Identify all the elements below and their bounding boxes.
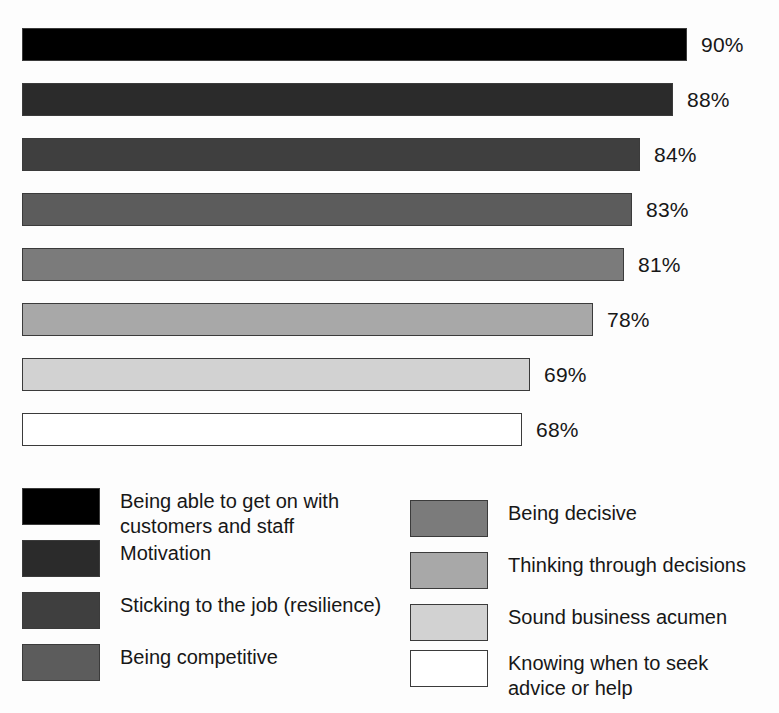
legend-item-label: Being decisive	[508, 500, 637, 526]
legend-swatch-icon	[410, 604, 488, 641]
bar-rect-90	[22, 28, 687, 61]
bar-row: 83%	[22, 193, 689, 226]
legend-item-label: Sound business acumen	[508, 604, 727, 630]
bar-chart-figure: 90% 88% 84% 83% 81% 78% 69% 68%	[0, 0, 779, 713]
bar-value-label: 68%	[536, 419, 579, 440]
bar-value-label: 88%	[687, 89, 730, 110]
bar-row: 88%	[22, 83, 730, 116]
bar-row: 84%	[22, 138, 697, 171]
legend-item-label: Motivation	[120, 540, 211, 566]
legend-item: Sound business acumen	[410, 604, 727, 641]
bar-rect-88	[22, 83, 673, 116]
legend-item: Being competitive	[22, 644, 278, 681]
bars-plot-area: 90% 88% 84% 83% 81% 78% 69% 68%	[0, 0, 779, 470]
bar-value-label: 84%	[654, 144, 697, 165]
legend-swatch-icon	[22, 488, 100, 525]
legend-item: Knowing when to seek advice or help	[410, 650, 708, 701]
legend-item-label: Thinking through decisions	[508, 552, 746, 578]
legend-item: Being able to get on with customers and …	[22, 488, 339, 539]
bar-rect-81	[22, 248, 624, 281]
bar-value-label: 78%	[607, 309, 650, 330]
legend-item: Being decisive	[410, 500, 637, 537]
legend-swatch-icon	[410, 552, 488, 589]
bar-value-label: 83%	[646, 199, 689, 220]
bar-rect-83	[22, 193, 632, 226]
legend-item-label: Knowing when to seek advice or help	[508, 650, 708, 701]
legend-swatch-icon	[22, 644, 100, 681]
bar-row: 90%	[22, 28, 744, 61]
legend-item-label: Sticking to the job (resilience)	[120, 592, 381, 618]
bar-rect-84	[22, 138, 640, 171]
legend-item: Motivation	[22, 540, 211, 577]
bar-row: 81%	[22, 248, 681, 281]
bar-value-label: 69%	[544, 364, 587, 385]
legend-swatch-icon	[22, 540, 100, 577]
bar-value-label: 81%	[638, 254, 681, 275]
legend-item: Thinking through decisions	[410, 552, 746, 589]
bar-row: 68%	[22, 413, 579, 446]
bar-row: 69%	[22, 358, 587, 391]
bar-rect-69	[22, 358, 530, 391]
chart-legend: Being able to get on with customers and …	[0, 478, 779, 713]
bar-rect-78	[22, 303, 593, 336]
legend-swatch-icon	[410, 650, 488, 687]
legend-swatch-icon	[410, 500, 488, 537]
legend-swatch-icon	[22, 592, 100, 629]
bar-rect-68	[22, 413, 522, 446]
bar-value-label: 90%	[701, 34, 744, 55]
legend-item: Sticking to the job (resilience)	[22, 592, 381, 629]
bar-row: 78%	[22, 303, 650, 336]
legend-item-label: Being able to get on with customers and …	[120, 488, 339, 539]
legend-item-label: Being competitive	[120, 644, 278, 670]
